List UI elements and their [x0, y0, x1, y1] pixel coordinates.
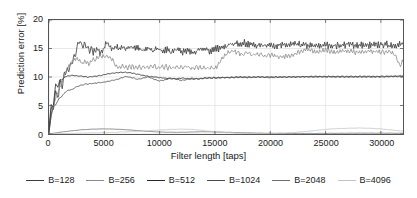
legend-item-b-2048[interactable]: B=2048 [272, 176, 325, 185]
series-line-b-1024 [49, 76, 403, 133]
legend-label: B=4096 [360, 176, 391, 185]
series-line-b-512 [49, 72, 403, 132]
series-line-b-256 [49, 48, 403, 131]
x-tick-label: 20000 [258, 139, 283, 148]
plot-svg [49, 20, 403, 134]
legend-label: B=256 [108, 176, 134, 185]
chart-legend: B=128B=256B=512B=1024B=2048B=4096 [0, 176, 417, 185]
x-tick-label: 0 [45, 139, 50, 148]
chart-figure: 05101520 050001000015000200002500030000 … [0, 0, 417, 198]
x-tick-label: 5000 [94, 139, 114, 148]
legend-label: B=128 [48, 176, 74, 185]
x-axis-label: Filter length [taps] [0, 150, 417, 161]
legend-swatch [26, 180, 44, 181]
y-tick-label: 0 [9, 131, 43, 140]
legend-swatch [86, 180, 104, 181]
plot-area [48, 19, 404, 135]
legend-item-b-128[interactable]: B=128 [26, 176, 74, 185]
legend-swatch [338, 180, 356, 181]
legend-label: B=512 [169, 176, 195, 185]
x-tick-label: 30000 [369, 139, 394, 148]
x-tick-label: 10000 [147, 139, 172, 148]
legend-swatch [272, 180, 290, 181]
x-tick-label: 15000 [202, 139, 227, 148]
legend-item-b-1024[interactable]: B=1024 [207, 176, 260, 185]
legend-item-b-512[interactable]: B=512 [147, 176, 195, 185]
legend-swatch [207, 180, 225, 181]
y-axis-label: Prediction error [%] [15, 0, 26, 114]
legend-swatch [147, 180, 165, 181]
legend-label: B=1024 [229, 176, 260, 185]
x-tick-label: 25000 [314, 139, 339, 148]
legend-item-b-4096[interactable]: B=4096 [338, 176, 391, 185]
legend-item-b-256[interactable]: B=256 [86, 176, 134, 185]
legend-label: B=2048 [294, 176, 325, 185]
